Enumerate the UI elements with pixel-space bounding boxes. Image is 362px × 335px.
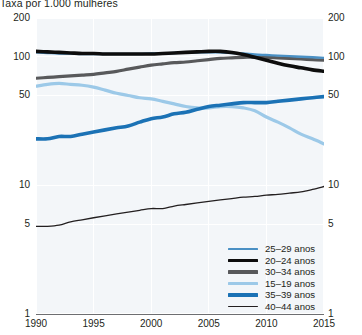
legend-item[interactable]: 40–44 anos: [228, 301, 315, 313]
y-axis-tick-right: 50: [328, 90, 362, 100]
x-axis-tick: 2010: [236, 319, 296, 329]
legend-item-label: 20–24 anos: [265, 256, 315, 266]
chart-legend: 25–29 anos20–24 anos30–34 anos15–19 anos…: [228, 243, 315, 313]
y-axis-tick-left: 5: [0, 219, 30, 229]
y-axis-tick-right: 10: [328, 180, 362, 190]
legend-color-swatch: [228, 270, 258, 273]
x-axis-tick: 1990: [6, 319, 66, 329]
legend-color-swatch: [228, 306, 258, 307]
legend-item[interactable]: 20–24 anos: [228, 255, 315, 267]
chart-title: Taxa por 1.000 mulheres: [0, 0, 118, 9]
legend-item[interactable]: 15–19 anos: [228, 278, 315, 290]
y-axis-tick-left: 10: [0, 180, 30, 190]
y-axis-tick-left: 200: [0, 13, 30, 23]
legend-item-label: 35–39 anos: [265, 290, 315, 300]
y-axis-tick-right: 5: [328, 219, 362, 229]
legend-item-label: 15–19 anos: [265, 279, 315, 289]
x-axis-tick: 2005: [179, 319, 239, 329]
legend-item[interactable]: 35–39 anos: [228, 289, 315, 301]
series-line: [36, 97, 324, 139]
x-axis-tick: 2000: [121, 319, 181, 329]
series-line: [36, 186, 324, 226]
x-axis-tick: 2015: [294, 319, 354, 329]
legend-item[interactable]: 25–29 anos: [228, 243, 315, 255]
x-axis-line: [36, 314, 324, 315]
y-axis-tick-right: 100: [328, 52, 362, 62]
y-axis-tick-left: 50: [0, 90, 30, 100]
series-line: [36, 57, 324, 78]
legend-item[interactable]: 30–34 anos: [228, 266, 315, 278]
fertility-rate-chart: Taxa por 1.000 mulheres 151050100200 151…: [0, 0, 362, 335]
legend-color-swatch: [228, 282, 258, 285]
y-axis-tick-left: 100: [0, 52, 30, 62]
legend-color-swatch: [228, 248, 258, 250]
legend-item-label: 25–29 anos: [265, 244, 315, 254]
y-axis-tick-right: 200: [328, 13, 362, 23]
legend-item-label: 40–44 anos: [265, 302, 315, 312]
legend-color-swatch: [228, 293, 258, 297]
legend-item-label: 30–34 anos: [265, 267, 315, 277]
x-axis-tick: 1995: [64, 319, 124, 329]
legend-color-swatch: [228, 259, 258, 263]
